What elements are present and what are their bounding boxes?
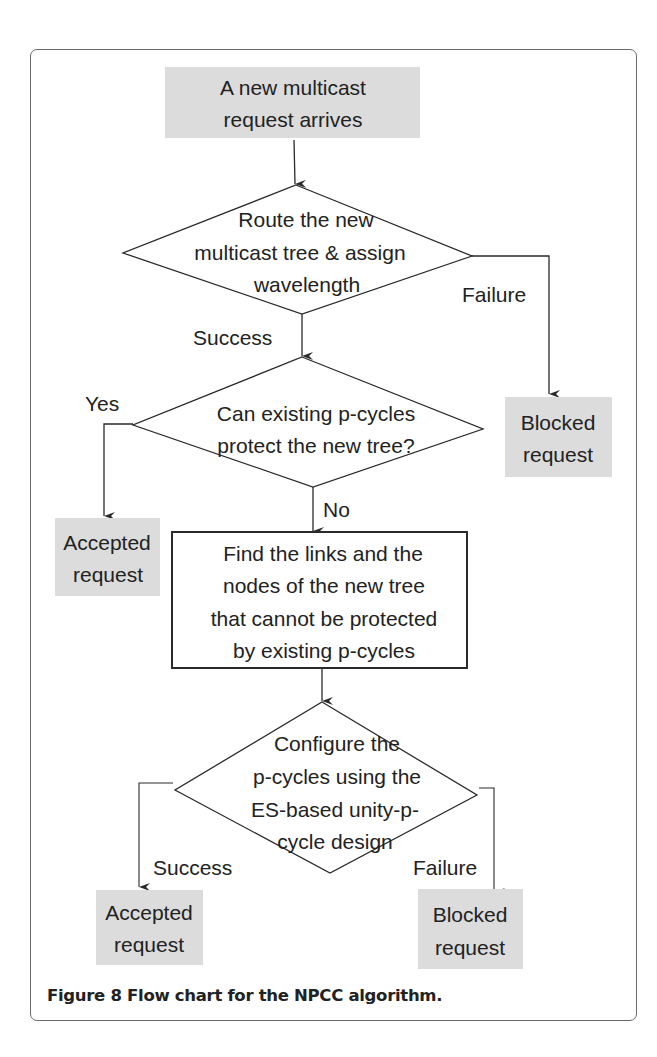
start-line-2: request arrives xyxy=(224,108,363,131)
route-decision-node: Route the new multicast tree & assign wa… xyxy=(123,185,472,314)
configure-decision-node: Configure the p-cycles using the ES-base… xyxy=(175,702,477,873)
find-line-4: by existing p-cycles xyxy=(233,639,415,662)
accepted2-line-1: Accepted xyxy=(105,901,193,924)
route-line-1: Route the new xyxy=(238,208,374,231)
accepted1-line-1: Accepted xyxy=(63,531,151,554)
accepted1-line-2: request xyxy=(73,563,143,586)
configure-line-4: cycle design xyxy=(277,830,393,853)
blocked2-line-2: request xyxy=(435,936,505,959)
accepted-request-node-1: Accepted request xyxy=(55,518,160,596)
protect-decision-node: Can existing p-cycles protect the new tr… xyxy=(133,357,483,487)
edge-route-failure xyxy=(472,256,549,394)
route-line-3: wavelength xyxy=(253,273,360,296)
blocked1-line-1: Blocked xyxy=(521,411,596,434)
start-node: A new multicast request arrives xyxy=(165,67,420,138)
configure-line-3: ES-based unity-p- xyxy=(251,798,419,821)
route-line-2: multicast tree & assign xyxy=(194,241,405,264)
label-configure-failure: Failure xyxy=(413,856,477,879)
protect-line-1: Can existing p-cycles xyxy=(217,402,415,425)
arrow-start-to-route xyxy=(294,140,295,184)
flowchart: A new multicast request arrives Route th… xyxy=(0,0,657,1057)
blocked1-line-2: request xyxy=(523,443,593,466)
label-route-success: Success xyxy=(193,326,272,349)
figure-caption: Figure 8 Flow chart for the NPCC algorit… xyxy=(47,986,442,1005)
configure-line-2: p-cycles using the xyxy=(253,765,421,788)
find-line-1: Find the links and the xyxy=(223,542,423,565)
find-line-2: nodes of the new tree xyxy=(223,574,425,597)
figure-number: Figure 8 xyxy=(47,986,122,1005)
find-line-3: that cannot be protected xyxy=(211,607,438,630)
label-configure-success: Success xyxy=(153,856,232,879)
label-protect-no: No xyxy=(323,498,350,521)
accepted-request-node-2: Accepted request xyxy=(96,890,203,965)
blocked-request-node-2: Blocked request xyxy=(418,889,523,969)
accepted2-line-2: request xyxy=(114,933,184,956)
protect-line-2: protect the new tree? xyxy=(217,434,414,457)
find-links-process-node: Find the links and the nodes of the new … xyxy=(172,532,467,668)
start-line-1: A new multicast xyxy=(220,76,366,99)
blocked2-line-1: Blocked xyxy=(433,903,508,926)
edge-protect-yes xyxy=(104,424,133,516)
edge-configure-failure xyxy=(479,788,494,892)
figure-title: Flow chart for the NPCC algorithm. xyxy=(122,986,443,1005)
label-route-failure: Failure xyxy=(462,283,526,306)
configure-line-1: Configure the xyxy=(274,732,400,755)
blocked-request-node-1: Blocked request xyxy=(505,397,612,477)
label-protect-yes: Yes xyxy=(85,392,119,415)
